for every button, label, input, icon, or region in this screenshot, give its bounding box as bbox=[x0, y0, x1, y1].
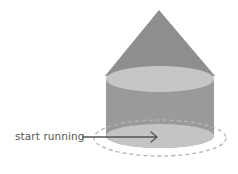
cone-cylinder-diagram bbox=[0, 0, 238, 174]
cylinder-top-face bbox=[106, 66, 214, 92]
cylinder-bottom-face bbox=[106, 124, 214, 148]
start-running-label: start running bbox=[15, 130, 85, 142]
